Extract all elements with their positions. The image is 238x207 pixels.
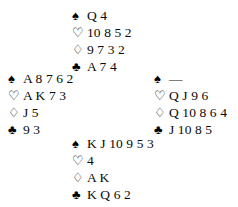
south-spades-ranks: K J 10 9 5 3 (85, 135, 154, 152)
west-clubs-ranks: 9 3 (21, 121, 40, 138)
east-spades-ranks: — (167, 70, 183, 87)
club-icon: ♣ (72, 186, 85, 203)
bridge-deal-diagram: ♠ Q 4 ♡ 10 8 5 2 ♢ 9 7 3 2 ♣ A 7 4 ♠ A 8… (0, 0, 238, 207)
diamond-icon: ♢ (8, 104, 21, 121)
south-diamonds-row: ♢ A K (72, 169, 154, 186)
south-hand: ♠ K J 10 9 5 3 ♡ 4 ♢ A K ♣ K Q 6 2 (72, 135, 154, 203)
south-hearts-ranks: 4 (85, 152, 94, 169)
north-clubs-ranks: A 7 4 (85, 58, 117, 75)
east-hearts-ranks: Q J 9 6 (167, 87, 208, 104)
heart-icon: ♡ (72, 152, 85, 169)
east-clubs-ranks: J 10 8 5 (167, 121, 212, 138)
north-hearts-row: ♡ 10 8 5 2 (72, 24, 132, 41)
heart-icon: ♡ (154, 87, 167, 104)
south-clubs-row: ♣ K Q 6 2 (72, 186, 154, 203)
west-diamonds-row: ♢ J 5 (8, 104, 73, 121)
east-clubs-row: ♣ J 10 8 5 (154, 121, 227, 138)
south-clubs-ranks: K Q 6 2 (85, 186, 131, 203)
south-hearts-row: ♡ 4 (72, 152, 154, 169)
club-icon: ♣ (154, 121, 167, 138)
east-hand: ♠ — ♡ Q J 9 6 ♢ Q 10 8 6 4 ♣ J 10 8 5 (154, 70, 227, 138)
north-diamonds-row: ♢ 9 7 3 2 (72, 41, 132, 58)
south-diamonds-ranks: A K (85, 169, 109, 186)
east-diamonds-row: ♢ Q 10 8 6 4 (154, 104, 227, 121)
spade-icon: ♠ (72, 135, 85, 152)
spade-icon: ♠ (8, 70, 21, 87)
east-diamonds-ranks: Q 10 8 6 4 (167, 104, 227, 121)
spade-icon: ♠ (72, 7, 85, 24)
west-hearts-row: ♡ A K 7 3 (8, 87, 73, 104)
north-hand: ♠ Q 4 ♡ 10 8 5 2 ♢ 9 7 3 2 ♣ A 7 4 (72, 7, 132, 75)
west-diamonds-ranks: J 5 (21, 104, 39, 121)
west-hearts-ranks: A K 7 3 (21, 87, 66, 104)
north-clubs-row: ♣ A 7 4 (72, 58, 132, 75)
west-spades-ranks: A 8 7 6 2 (21, 70, 73, 87)
diamond-icon: ♢ (72, 41, 85, 58)
north-spades-row: ♠ Q 4 (72, 7, 132, 24)
west-clubs-row: ♣ 9 3 (8, 121, 73, 138)
north-diamonds-ranks: 9 7 3 2 (85, 41, 125, 58)
east-spades-row: ♠ — (154, 70, 227, 87)
north-hearts-ranks: 10 8 5 2 (85, 24, 132, 41)
heart-icon: ♡ (8, 87, 21, 104)
heart-icon: ♡ (72, 24, 85, 41)
club-icon: ♣ (8, 121, 21, 138)
west-spades-row: ♠ A 8 7 6 2 (8, 70, 73, 87)
south-spades-row: ♠ K J 10 9 5 3 (72, 135, 154, 152)
north-spades-ranks: Q 4 (85, 7, 107, 24)
spade-icon: ♠ (154, 70, 167, 87)
east-hearts-row: ♡ Q J 9 6 (154, 87, 227, 104)
west-hand: ♠ A 8 7 6 2 ♡ A K 7 3 ♢ J 5 ♣ 9 3 (8, 70, 73, 138)
diamond-icon: ♢ (72, 169, 85, 186)
diamond-icon: ♢ (154, 104, 167, 121)
club-icon: ♣ (72, 58, 85, 75)
